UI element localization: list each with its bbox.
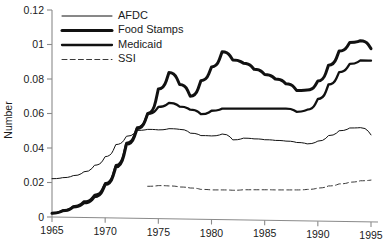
x-axis-ticks: 1965197019751980198519901995 [40, 217, 383, 241]
x-tick-label: 1970 [93, 225, 117, 237]
y-tick-label: 0.04 [24, 142, 45, 154]
chart-canvas: 00.020.040.060.08010.12 1965197019751980… [0, 0, 385, 246]
y-tick-label: 01 [32, 38, 44, 50]
legend-label-ssi: SSI [118, 52, 136, 64]
y-axis-title: Number [2, 101, 14, 139]
series-line-afdc [52, 128, 371, 179]
y-tick-label: 0.02 [24, 176, 45, 188]
x-tick-label: 1985 [253, 227, 277, 239]
series-line-medicaid [52, 60, 371, 213]
y-tick-label: 0.06 [24, 107, 45, 119]
x-tick-label: 1965 [40, 224, 64, 236]
chart-legend: AFDCFood StampsMedicaidSSI [62, 9, 184, 65]
x-tick-label: 1980 [200, 227, 224, 239]
x-tick-label: 1975 [147, 226, 171, 238]
x-axis-line [52, 217, 378, 222]
y-tick-label: 0 [38, 211, 44, 223]
y-tick-label: 0.08 [24, 73, 45, 85]
series-layer [52, 41, 371, 214]
y-axis-ticks: 00.020.040.060.08010.12 [24, 4, 52, 223]
series-line-ssi [148, 180, 371, 190]
x-tick-label: 1995 [359, 229, 383, 241]
y-tick-label: 0.12 [24, 4, 45, 16]
line-chart: 00.020.040.060.08010.12 1965197019751980… [0, 0, 385, 246]
legend-label-afdc: AFDC [118, 9, 148, 21]
x-tick-label: 1990 [306, 228, 330, 240]
legend-label-medicaid: Medicaid [118, 38, 162, 50]
legend-label-food-stamps: Food Stamps [118, 23, 184, 35]
